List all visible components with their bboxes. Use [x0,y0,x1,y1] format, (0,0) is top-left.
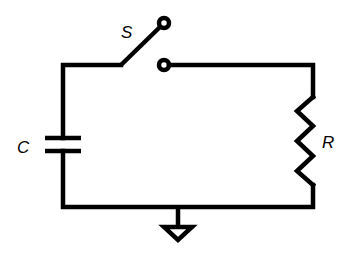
wire-top-right [169,65,313,97]
circuit-diagram: S C R [0,0,352,255]
switch-contact-bottom [159,60,169,70]
label-resistor: R [322,133,334,152]
wire-top-left [63,65,121,138]
label-capacitor: C [17,138,30,157]
label-switch: S [121,23,133,42]
ground-icon [164,227,192,240]
switch-contact-top [159,18,169,28]
wire-right-bottom [63,151,313,207]
resistor-zigzag [297,97,313,185]
